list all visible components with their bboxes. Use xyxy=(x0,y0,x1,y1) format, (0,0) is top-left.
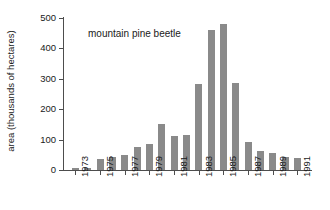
y-tick: 400 xyxy=(0,48,63,49)
bar xyxy=(208,30,215,170)
y-tick-label: 300 xyxy=(40,72,56,85)
y-axis-title: area (thousands of hectares) xyxy=(2,6,20,176)
bar xyxy=(220,24,227,170)
bar xyxy=(294,158,301,170)
x-tick-mark xyxy=(125,171,126,175)
x-tick-label: 1983 xyxy=(203,156,214,177)
y-tick-label: 0 xyxy=(51,163,56,176)
bar xyxy=(171,136,178,170)
bar xyxy=(97,159,104,170)
bar xyxy=(269,153,276,170)
y-tick-label: 100 xyxy=(40,133,56,146)
x-tick-mark xyxy=(223,171,224,175)
x-tick-label: 1981 xyxy=(178,156,189,177)
y-tick: 500 xyxy=(0,18,63,19)
y-tick-label: 200 xyxy=(40,102,56,115)
y-tick-label: 500 xyxy=(40,11,56,24)
x-tick-label: 1979 xyxy=(153,156,164,177)
y-tick-mark xyxy=(59,170,63,171)
chart-annotation: mountain pine beetle xyxy=(88,28,181,39)
x-tick-mark xyxy=(273,171,274,175)
chart-screenshot: area (thousands of hectares) 01002003004… xyxy=(0,0,330,210)
y-tick: 0 xyxy=(0,170,63,171)
x-tick-mark xyxy=(174,171,175,175)
bar xyxy=(72,168,79,170)
x-tick-label: 1973 xyxy=(79,156,90,177)
x-tick-label: 1991 xyxy=(301,156,312,177)
x-tick-mark xyxy=(199,171,200,175)
x-tick-label: 1977 xyxy=(129,156,140,177)
x-tick-label: 1987 xyxy=(252,156,263,177)
y-tick: 100 xyxy=(0,140,63,141)
x-tick-mark xyxy=(248,171,249,175)
x-tick-label: 1975 xyxy=(104,156,115,177)
bar xyxy=(146,144,153,170)
y-tick-label: 400 xyxy=(40,41,56,54)
bar xyxy=(245,142,252,170)
y-tick: 300 xyxy=(0,79,63,80)
x-tick-mark xyxy=(297,171,298,175)
plot-area xyxy=(63,18,311,170)
y-tick: 200 xyxy=(0,109,63,110)
x-tick-label: 1989 xyxy=(277,156,288,177)
x-tick-mark xyxy=(100,171,101,175)
x-tick-label: 1985 xyxy=(227,156,238,177)
bar xyxy=(195,84,202,170)
x-tick-mark xyxy=(75,171,76,175)
x-tick-mark xyxy=(149,171,150,175)
bar xyxy=(121,155,128,170)
